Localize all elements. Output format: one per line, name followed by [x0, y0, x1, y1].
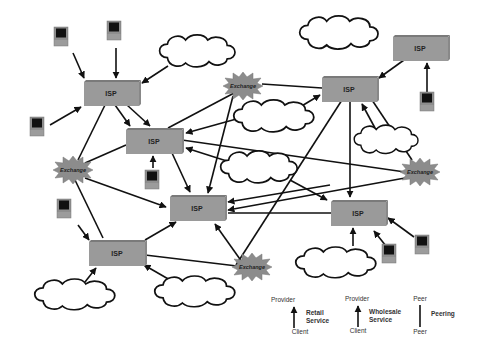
svg-text:ISP: ISP: [105, 90, 117, 97]
svg-text:Client: Client: [350, 327, 367, 334]
svg-text:Wholesale: Wholesale: [369, 308, 402, 315]
cloud: [155, 276, 235, 307]
exchange-node: Exchange: [400, 158, 440, 186]
cloud: [35, 279, 115, 310]
link-ex2-isp4: [75, 180, 103, 238]
link-monitor-isp1-a: [73, 53, 84, 78]
exchange-node: Exchange: [53, 156, 93, 184]
isp-node: ISP: [322, 76, 379, 102]
svg-text:Service: Service: [369, 316, 393, 323]
svg-text:Provider: Provider: [271, 296, 296, 303]
link-isp1-isp2-a: [115, 105, 130, 126]
cloud: [221, 151, 298, 183]
computer-icon: [420, 92, 434, 111]
svg-text:Service: Service: [306, 317, 330, 324]
isp-node: ISP: [84, 80, 141, 106]
link-cloud-isp1: [142, 66, 168, 83]
network-diagram: Exchange Exchange Exchange Exchange ISP …: [0, 0, 484, 355]
svg-text:Peer: Peer: [413, 328, 428, 335]
computer-icon: [30, 117, 44, 136]
svg-text:ISP: ISP: [111, 250, 123, 257]
cloud: [234, 100, 314, 132]
link-cloud-isp4-b: [144, 265, 170, 280]
svg-text:Provider: Provider: [345, 295, 370, 302]
isp-node: ISP: [331, 200, 388, 226]
svg-text:Exchange: Exchange: [230, 83, 256, 89]
legend-wholesale: Provider Client Wholesale Service: [345, 295, 402, 334]
computer-icon: [415, 235, 429, 254]
link-monitor-isp4: [78, 225, 89, 240]
isp-node: ISP: [89, 240, 147, 266]
computer-icon: [145, 170, 159, 189]
svg-text:ISP: ISP: [352, 210, 364, 217]
computer-icon: [57, 199, 71, 218]
link-cloud-isp2: [186, 118, 240, 133]
cloud: [300, 16, 378, 49]
link-isp4-ex4: [145, 255, 237, 266]
svg-text:ISP: ISP: [343, 86, 355, 93]
computer-icon: [107, 21, 121, 40]
svg-text:ISP: ISP: [191, 205, 203, 212]
svg-text:Client: Client: [292, 328, 309, 335]
cloud: [296, 247, 376, 278]
link-isp2-ex2: [85, 145, 126, 163]
computer-icon: [382, 244, 396, 263]
svg-text:Peer: Peer: [413, 295, 428, 302]
link-monitor-isp1-c: [50, 107, 81, 125]
link-monitor-isp7-b: [388, 218, 414, 237]
link-cloud-isp5-b: [362, 104, 375, 128]
svg-text:Exchange: Exchange: [407, 169, 433, 175]
svg-text:ISP: ISP: [414, 45, 426, 52]
link-isp6-isp5: [379, 60, 404, 78]
isp-node: ISP: [126, 128, 184, 154]
link-ex4-isp3: [215, 224, 242, 262]
cloud: [354, 125, 418, 153]
isp-node: ISP: [170, 195, 227, 221]
link-cloud-isp4-a: [85, 268, 96, 282]
link-isp1-ex2: [78, 105, 105, 160]
isp-node: ISP: [393, 35, 450, 61]
computer-icon: [54, 27, 68, 46]
cloud: [160, 35, 235, 67]
svg-text:Exchange: Exchange: [239, 264, 265, 270]
svg-text:Retail: Retail: [306, 309, 324, 316]
svg-text:Exchange: Exchange: [60, 167, 86, 173]
legend: Provider Client Retail Service Provider …: [271, 295, 455, 335]
svg-text:ISP: ISP: [148, 138, 160, 145]
legend-retail: Provider Client Retail Service: [271, 296, 330, 335]
svg-text:Peering: Peering: [431, 310, 455, 318]
link-isp1-isp2-b: [127, 105, 150, 126]
link-isp4-isp3: [145, 222, 176, 240]
link-ex1-isp5: [262, 84, 322, 88]
legend-peering: Peer Peer Peering: [413, 295, 455, 335]
